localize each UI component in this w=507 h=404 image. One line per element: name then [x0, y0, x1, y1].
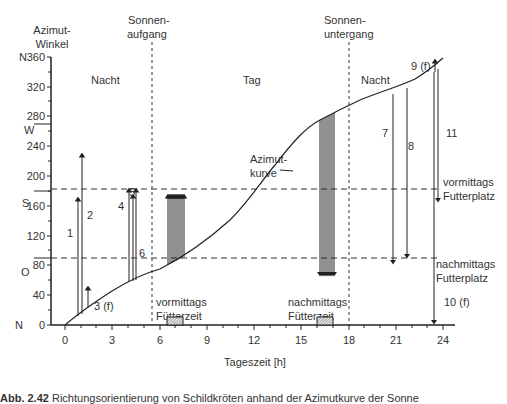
arrow-label-11: 11 — [446, 127, 457, 139]
morning-feed-label-line1: vormittags — [156, 296, 207, 308]
caption-prefix: Abb. 2.42 — [0, 392, 49, 404]
sunrise-label-line2: aufgang — [127, 28, 167, 40]
region-day: Tag — [243, 74, 261, 86]
arrow-label-8: 8 — [408, 140, 414, 152]
x-tick-6: 6 — [157, 334, 163, 346]
arrow-label-2: 2 — [87, 209, 93, 221]
y-axis-title-line2: Winkel — [35, 38, 68, 50]
sunset-label-line1: Sonnen- — [324, 14, 366, 26]
region-night-left: Nacht — [91, 74, 120, 86]
azimuth-curve — [65, 58, 443, 325]
afternoon-feed-label-line1: nachmittags — [288, 296, 348, 308]
caption-text: Richtungsorientierung von Schildkröten a… — [52, 392, 419, 404]
y-tick-360: 360 — [27, 51, 45, 63]
arrow-label-3: 3 (f) — [94, 300, 114, 312]
x-tick-24: 24 — [437, 334, 449, 346]
afternoon-feeding-time-box — [317, 317, 333, 325]
x-tick-12: 12 — [248, 334, 260, 346]
curve-label-leader — [280, 170, 293, 171]
y-tick-320: 320 — [27, 81, 45, 93]
morning-feeding-time-box — [167, 317, 183, 325]
curve-label-line2: kurve — [250, 167, 277, 179]
curve-label-line1: Azimut- — [250, 153, 288, 165]
arrow-label-9: 9 (f) — [411, 60, 431, 72]
region-night-right: Nacht — [361, 74, 390, 86]
x-tick-21: 21 — [390, 334, 402, 346]
morning-place-label-line1: vormittags — [443, 176, 494, 188]
y-tick-0: 0 — [39, 319, 45, 331]
compass-n-bottom: N — [15, 319, 23, 331]
afternoon-place-label-line2: Futterplatz — [436, 272, 488, 284]
y-tick-40: 40 — [33, 289, 45, 301]
x-tick-15: 15 — [295, 334, 307, 346]
y-tick-120: 120 — [27, 230, 45, 242]
arrow-label-4: 4 — [118, 200, 124, 212]
figure-caption: Abb. 2.42 Richtungsorientierung von Schi… — [0, 392, 507, 404]
compass-w: W — [24, 124, 35, 136]
x-axis: 0 3 6 9 12 15 18 21 24 Tageszeit [h] — [51, 325, 455, 368]
x-tick-18: 18 — [343, 334, 355, 346]
y-tick-240: 240 — [27, 140, 45, 152]
x-tick-9: 9 — [204, 334, 210, 346]
arrow-label-5: 5 — [129, 186, 135, 198]
x-tick-3: 3 — [109, 334, 115, 346]
arrow-label-10: 10 (f) — [444, 296, 470, 308]
azimuth-chart: 0 40 80 120 160 200 240 280 320 360 N W … — [0, 0, 507, 404]
compass-o: O — [21, 266, 30, 278]
arrow-label-6: 6 — [139, 247, 145, 259]
compass-n-top: N — [19, 51, 27, 63]
arrow-label-7: 7 — [382, 127, 388, 139]
compass-s: S — [22, 197, 29, 209]
y-axis: 0 40 80 120 160 200 240 280 320 360 N W … — [15, 24, 71, 331]
arrow-label-1: 1 — [67, 227, 73, 239]
y-tick-200: 200 — [27, 170, 45, 182]
afternoon-place-label-line1: nachmittags — [436, 258, 496, 270]
y-tick-160: 160 — [27, 200, 45, 212]
sunrise-label-line1: Sonnen- — [128, 14, 170, 26]
y-tick-80: 80 — [33, 259, 45, 271]
x-tick-0: 0 — [62, 334, 68, 346]
sunset-label-line2: untergang — [324, 28, 374, 40]
morning-place-label-line2: Futterplatz — [443, 190, 495, 202]
x-axis-title: Tageszeit [h] — [224, 356, 286, 368]
y-axis-title-line1: Azimut- — [33, 24, 71, 36]
y-tick-280: 280 — [27, 110, 45, 122]
